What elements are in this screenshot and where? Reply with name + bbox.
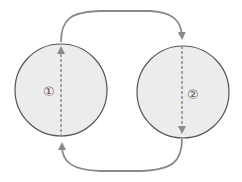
node-2: ② [137,46,229,138]
circle-2 [137,46,229,138]
cycle-diagram: ① ② [0,0,242,182]
bottom-arc-arrow [62,139,182,171]
node-1-label: ① [43,84,55,99]
node-2-label: ② [187,87,199,102]
node-1: ① [15,44,107,137]
top-arc-arrow [61,11,182,42]
